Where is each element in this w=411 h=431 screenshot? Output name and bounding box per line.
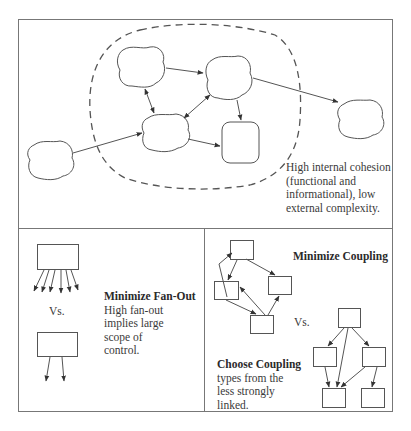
arrow-b-c-bidirectional bbox=[184, 95, 210, 118]
data-store-box bbox=[222, 122, 259, 163]
caption-line: linked. bbox=[217, 399, 301, 413]
hier-module-bottom-right bbox=[362, 389, 385, 408]
arrow-c-to-box bbox=[188, 139, 220, 146]
choose-coupling-heading: Choose Coupling bbox=[217, 358, 301, 372]
high-fan-out-module bbox=[38, 245, 79, 270]
cloud-module-c bbox=[142, 114, 190, 152]
fan-out-heading: Minimize Fan-Out bbox=[104, 290, 196, 304]
cloud-module-d bbox=[28, 141, 74, 180]
hier-module-mid-right bbox=[363, 348, 386, 367]
diagram-canvas bbox=[0, 0, 411, 431]
caption-line: types from the bbox=[217, 372, 301, 386]
arrow-b-to-e bbox=[253, 78, 338, 102]
hier-module-mid-left bbox=[314, 348, 337, 367]
hier-module-bottom-left bbox=[323, 389, 346, 408]
module-boundary-dashed bbox=[90, 24, 301, 189]
coupled-module-4 bbox=[251, 316, 274, 334]
choose-coupling-caption: Choose Coupling types from the less stro… bbox=[217, 358, 301, 412]
arrow-d-to-c bbox=[73, 133, 142, 153]
hier-module-top bbox=[339, 309, 361, 328]
fan-out-vs-label: Vs. bbox=[49, 305, 65, 319]
tight-coupling-diagram bbox=[215, 241, 292, 334]
low-fan-out-module bbox=[38, 333, 78, 357]
caption-line: implies large bbox=[104, 317, 196, 331]
arrow-b-to-box bbox=[237, 100, 241, 120]
arrow-a-to-b bbox=[166, 68, 203, 73]
caption-line: High fan-out bbox=[104, 304, 196, 318]
loose-coupling-diagram bbox=[314, 309, 386, 408]
cohesion-caption: High internal cohesion (functional and i… bbox=[286, 161, 391, 215]
caption-line: control. bbox=[104, 344, 196, 358]
caption-line: scope of bbox=[104, 331, 196, 345]
cloud-module-a bbox=[117, 47, 164, 87]
caption-line: less strongly bbox=[217, 385, 301, 399]
minimize-coupling-text: Minimize Coupling bbox=[293, 250, 388, 264]
caption-line: informational), low bbox=[286, 188, 391, 202]
coupled-module-3 bbox=[269, 277, 292, 295]
caption-line: High internal cohesion bbox=[286, 161, 391, 175]
caption-line: (functional and bbox=[286, 175, 391, 189]
cloud-module-b bbox=[206, 56, 252, 100]
fan-out-caption: Minimize Fan-Out High fan-out implies la… bbox=[104, 290, 196, 358]
minimize-coupling-heading: Minimize Coupling bbox=[293, 250, 388, 264]
cloud-module-e bbox=[338, 100, 384, 139]
coupling-vs-label: Vs. bbox=[294, 316, 310, 330]
arrow-a-c-bidirectional bbox=[145, 89, 154, 113]
caption-line: external complexity. bbox=[286, 202, 391, 216]
coupled-module-1 bbox=[231, 241, 254, 260]
